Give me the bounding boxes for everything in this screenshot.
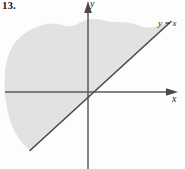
math-figure: 13. y x y = x [0, 0, 185, 169]
x-axis-label: x [172, 94, 176, 104]
line-equation-label: y = x [158, 19, 177, 28]
problem-number: 13. [2, 0, 16, 11]
y-axis-label: y [90, 0, 94, 9]
